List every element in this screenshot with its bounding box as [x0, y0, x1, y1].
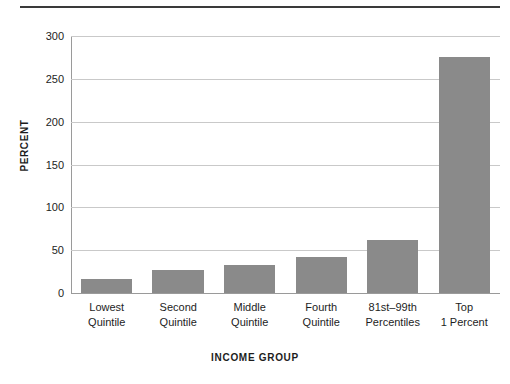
bar[interactable] — [439, 57, 490, 293]
bar-slot — [214, 36, 285, 293]
x-tick-label: Top1 Percent — [429, 300, 500, 330]
x-tick-label-line: 81st–99th — [357, 300, 428, 315]
bar-slot — [429, 36, 500, 293]
bar-slot — [357, 36, 428, 293]
x-tick-label-line: Quintile — [142, 315, 213, 330]
x-tick-label: FourthQuintile — [286, 300, 357, 330]
x-axis-title: INCOME GROUP — [0, 352, 510, 363]
plot-area: 050100150200250300 — [71, 36, 500, 293]
bar-slot — [142, 36, 213, 293]
y-tick-label-100: 100 — [46, 201, 64, 213]
chart-figure: PERCENT 050100150200250300 LowestQuintil… — [0, 0, 510, 384]
gridline-0 — [71, 293, 500, 294]
bar-slot — [286, 36, 357, 293]
x-tick-label-line: Lowest — [71, 300, 142, 315]
y-tick-label-0: 0 — [58, 287, 64, 299]
x-tick-label: LowestQuintile — [71, 300, 142, 330]
y-tick-label-250: 250 — [46, 73, 64, 85]
x-tick-label-line: Quintile — [214, 315, 285, 330]
y-axis-title: PERCENT — [19, 86, 30, 206]
x-tick-label-line: Quintile — [286, 315, 357, 330]
x-tick-label-line: Top — [429, 300, 500, 315]
bar[interactable] — [296, 257, 347, 293]
bar-slot — [71, 36, 142, 293]
bar[interactable] — [152, 270, 203, 293]
x-tick-label-line: Second — [142, 300, 213, 315]
x-tick-label: MiddleQuintile — [214, 300, 285, 330]
x-tick-label-line: 1 Percent — [429, 315, 500, 330]
y-tick-label-150: 150 — [46, 159, 64, 171]
bar[interactable] — [224, 265, 275, 293]
x-tick-label-line: Quintile — [71, 315, 142, 330]
x-tick-label: SecondQuintile — [142, 300, 213, 330]
top-rule-divider — [20, 6, 500, 8]
y-tick-label-200: 200 — [46, 116, 64, 128]
bars-group — [71, 36, 500, 293]
x-tick-label-line: Fourth — [286, 300, 357, 315]
bar[interactable] — [81, 279, 132, 293]
x-tick-label: 81st–99thPercentiles — [357, 300, 428, 330]
bar[interactable] — [367, 240, 418, 293]
y-tick-label-50: 50 — [52, 244, 64, 256]
x-tick-label-line: Percentiles — [357, 315, 428, 330]
x-axis-tick-labels: LowestQuintileSecondQuintileMiddleQuinti… — [71, 300, 500, 340]
y-tick-label-300: 300 — [46, 30, 64, 42]
x-tick-label-line: Middle — [214, 300, 285, 315]
